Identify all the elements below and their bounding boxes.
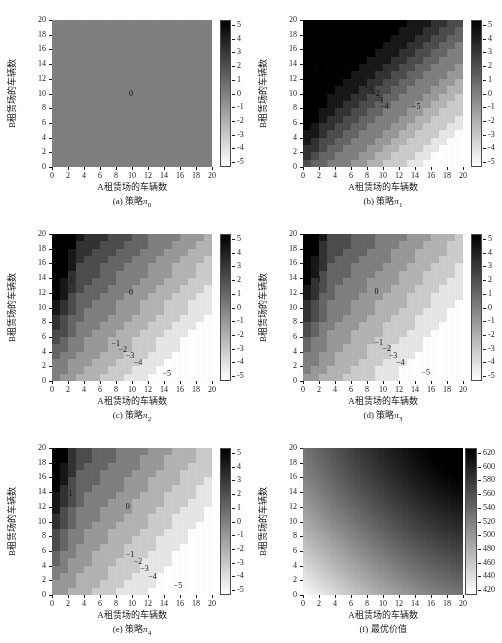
- y-tick-label: 12: [279, 503, 297, 511]
- x-tick-mark: [84, 381, 85, 384]
- colorbar-tick-mark: [232, 94, 235, 95]
- x-tick-mark: [431, 167, 432, 170]
- x-tick-mark: [335, 167, 336, 170]
- contour-label: −5: [422, 369, 431, 377]
- y-axis-label: B租赁场的车辆数: [6, 20, 18, 167]
- x-tick-mark: [164, 381, 165, 384]
- colorbar-tick-mark: [483, 25, 486, 26]
- y-axis-label: B租赁场的车辆数: [257, 448, 269, 595]
- colorbar-tick-mark: [232, 162, 235, 163]
- x-tick-mark: [319, 595, 320, 598]
- contour-label: 1: [70, 277, 74, 285]
- y-tick-label: 18: [28, 245, 46, 253]
- y-tick-label: 0: [279, 163, 297, 171]
- x-tick-mark: [367, 381, 368, 384]
- x-tick-mark: [351, 381, 352, 384]
- x-tick-mark: [367, 595, 368, 598]
- colorbar-a: 543210-1-2-3-4-5: [220, 20, 231, 167]
- contour-label: 0: [345, 81, 349, 89]
- x-tick-mark: [148, 381, 149, 384]
- y-tick-label: 4: [279, 562, 297, 570]
- panel-d: 10−1−2−3−4−50246810121416182002468101214…: [251, 214, 502, 428]
- colorbar-tick-label: 500: [483, 531, 495, 539]
- colorbar-tick-label: -3: [237, 345, 244, 353]
- colorbar-tick-label: -1: [237, 317, 244, 325]
- y-tick-mark: [300, 152, 303, 153]
- colorbar-tick-label: 600: [483, 463, 495, 471]
- panel-caption-text: (f) 最优价值: [359, 624, 406, 634]
- colorbar-gradient: [220, 234, 231, 381]
- x-tick-mark: [351, 167, 352, 170]
- y-tick-label: 8: [28, 532, 46, 540]
- y-tick-label: 18: [279, 31, 297, 39]
- y-tick-label: 4: [28, 562, 46, 570]
- y-tick-label: 8: [28, 318, 46, 326]
- y-tick-label: 16: [28, 45, 46, 53]
- colorbar-tick-mark: [478, 549, 481, 550]
- y-tick-mark: [49, 308, 52, 309]
- y-axis-label: B租赁场的车辆数: [257, 234, 269, 381]
- y-tick-mark: [300, 249, 303, 250]
- heatmap-f: [303, 448, 463, 595]
- y-tick-label: 14: [28, 60, 46, 68]
- y-tick-label: 10: [279, 90, 297, 98]
- x-tick-mark: [164, 167, 165, 170]
- colorbar-tick-label: -5: [488, 372, 495, 380]
- y-tick-label: 12: [279, 289, 297, 297]
- x-tick-mark: [180, 167, 181, 170]
- colorbar-tick-label: 560: [483, 490, 495, 498]
- panel-caption-a: (a) 策略π0: [26, 196, 238, 211]
- colorbar-tick-label: 2: [237, 490, 241, 498]
- colorbar-tick-label: 4: [237, 35, 241, 43]
- colorbar-tick-label: 0: [488, 90, 492, 98]
- contour-label: −5: [174, 582, 183, 590]
- colorbar-ticks: 620600580560540520500480460440420: [478, 448, 502, 595]
- colorbar-tick-mark: [232, 280, 235, 281]
- y-tick-label: 2: [279, 576, 297, 584]
- x-tick-mark: [399, 381, 400, 384]
- y-tick-mark: [300, 20, 303, 21]
- colorbar-tick-mark: [232, 576, 235, 577]
- colorbar-tick-mark: [483, 362, 486, 363]
- x-tick-mark: [431, 595, 432, 598]
- panel-caption-text: (e) 策略: [113, 624, 143, 634]
- colorbar-tick-label: -3: [488, 131, 495, 139]
- colorbar-tick-mark: [483, 349, 486, 350]
- colorbar-tick-label: -5: [237, 158, 244, 166]
- panel-caption-text: (c) 策略: [113, 410, 143, 420]
- y-tick-mark: [300, 123, 303, 124]
- colorbar-tick-label: -5: [237, 586, 244, 594]
- colorbar-tick-mark: [483, 308, 486, 309]
- y-tick-label: 12: [28, 289, 46, 297]
- y-tick-label: 2: [279, 148, 297, 156]
- colorbar-tick-mark: [483, 121, 486, 122]
- y-tick-mark: [49, 463, 52, 464]
- x-tick-mark: [399, 595, 400, 598]
- colorbar-tick-mark: [232, 467, 235, 468]
- x-tick-label: 20: [203, 386, 221, 394]
- y-tick-label: 10: [28, 90, 46, 98]
- colorbar-tick-label: 540: [483, 504, 495, 512]
- x-tick-mark: [132, 381, 133, 384]
- colorbar-tick-mark: [483, 280, 486, 281]
- y-tick-mark: [49, 551, 52, 552]
- y-tick-label: 10: [28, 304, 46, 312]
- panel-a: 00246810121416182002468101214161820B租赁场的…: [0, 0, 251, 214]
- contour-label: 0: [129, 289, 133, 297]
- colorbar-tick-label: -4: [488, 358, 495, 366]
- x-tick-mark: [116, 595, 117, 598]
- y-tick-mark: [300, 263, 303, 264]
- contour-label: 0: [126, 503, 130, 511]
- heatmap-b: [303, 20, 463, 167]
- colorbar-tick-mark: [232, 148, 235, 149]
- heatmap-d: [303, 234, 463, 381]
- colorbar-tick-mark: [232, 563, 235, 564]
- y-tick-mark: [49, 108, 52, 109]
- y-tick-mark: [300, 138, 303, 139]
- colorbar-tick-label: -3: [237, 559, 244, 567]
- plot-area-b: [303, 20, 463, 167]
- y-tick-label: 10: [279, 518, 297, 526]
- y-axis-label: B租赁场的车辆数: [6, 234, 18, 381]
- y-tick-mark: [300, 108, 303, 109]
- panel-caption-text: (b) 策略: [364, 196, 395, 206]
